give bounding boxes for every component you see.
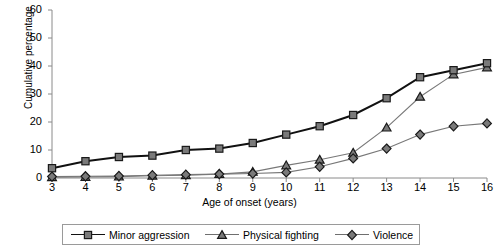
square-marker [149,152,156,159]
x-tick-label: 12 [343,182,363,193]
x-tick-label: 7 [176,182,196,193]
y-tick-label: 0 [18,172,42,183]
x-tick-label: 16 [477,182,497,193]
x-tick-label: 4 [75,182,95,193]
x-tick-label: 5 [109,182,129,193]
square-marker [416,74,423,81]
square-marker [115,153,122,160]
square-marker [249,139,256,146]
legend-item-physical-fighting[interactable]: Physical fighting [205,225,319,244]
square-marker [283,131,290,138]
series-physical-fighting [48,63,492,181]
triangle-marker [218,230,227,238]
triangle-marker [205,228,239,242]
y-tick-label: 50 [18,32,42,43]
y-tick-label: 40 [18,60,42,71]
x-tick-label: 13 [377,182,397,193]
diamond-marker [348,230,357,239]
x-tick-label: 9 [243,182,263,193]
square-marker [450,67,457,74]
diamond-marker [449,122,458,131]
square-marker [182,146,189,153]
diamond-marker-icon [345,228,359,242]
triangle-marker-icon [215,228,229,242]
diamond-marker [416,130,425,139]
legend-item-violence[interactable]: Violence [335,225,413,244]
x-tick-label: 8 [209,182,229,193]
square-marker [71,228,105,242]
legend-label: Violence [373,229,413,241]
square-marker [316,123,323,130]
plot-area [0,0,499,252]
x-tick-label: 11 [310,182,330,193]
x-tick-label: 3 [42,182,62,193]
square-marker [483,60,490,67]
x-tick-label: 14 [410,182,430,193]
y-tick-label: 30 [18,88,42,99]
diamond-marker [483,119,492,128]
series-violence [48,119,492,181]
series-minor-aggression [48,60,490,172]
chart-figure: Cumulative percentage 6050403020100 3456… [0,0,499,252]
square-marker [383,95,390,102]
diamond-marker [248,169,257,178]
legend-label: Minor aggression [109,229,190,241]
legend-label: Physical fighting [243,229,319,241]
triangle-marker [416,92,425,100]
square-marker [350,111,357,118]
square-marker [82,158,89,165]
chart-legend: Minor aggressionPhysical fightingViolenc… [62,224,420,245]
y-tick-label: 20 [18,116,42,127]
square-marker [84,231,91,238]
square-marker-icon [81,228,95,242]
diamond-marker [382,144,391,153]
y-tick-label: 10 [18,144,42,155]
square-marker [216,145,223,152]
x-tick-label: 6 [142,182,162,193]
y-tick-label: 60 [18,4,42,15]
x-tick-label: 15 [444,182,464,193]
x-axis-title: Age of onset (years) [0,196,499,208]
legend-item-minor-aggression[interactable]: Minor aggression [71,225,190,244]
x-tick-label: 10 [276,182,296,193]
square-marker [48,165,55,172]
diamond-marker [335,228,369,242]
